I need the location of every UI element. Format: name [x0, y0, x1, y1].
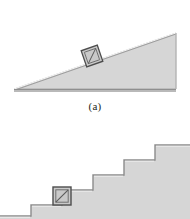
staircase-illustration	[0, 117, 190, 219]
physics-figure: (a)	[0, 0, 190, 219]
inclined-plane-illustration	[0, 0, 190, 97]
crate-on-stair	[53, 187, 71, 205]
staircase-shape	[0, 145, 190, 219]
figure-caption-a: (a)	[0, 99, 190, 113]
staircase-panel	[0, 117, 190, 219]
inclined-plane-panel	[0, 0, 190, 97]
